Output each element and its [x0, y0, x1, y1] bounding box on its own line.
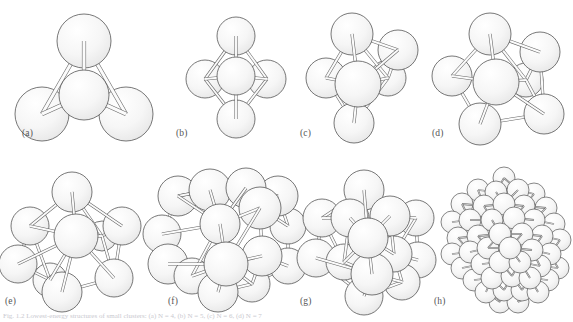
panel-label-e: (e): [5, 296, 16, 306]
panel-label-f: (f): [168, 296, 178, 306]
cluster-panel-d: [440, 10, 566, 136]
cluster-panel-h: [442, 170, 568, 300]
panel-label-g: (g): [300, 296, 312, 306]
cluster-panel-f: [152, 168, 292, 300]
panel-label-a: (a): [22, 128, 33, 138]
atom-layer-4: [473, 59, 519, 105]
atom-sphere: [473, 59, 519, 105]
cluster-panel-g: [306, 170, 432, 300]
cluster-panel-a: [10, 6, 155, 136]
atom-sphere: [335, 61, 381, 107]
cluster-panel-e: [10, 170, 145, 300]
atom-sphere: [59, 70, 109, 120]
panel-label-h: (h): [434, 296, 446, 306]
cluster-structures-figure: Fig. 1.2 Lowest-energy structures of sma…: [0, 0, 573, 322]
atom-sphere: [499, 237, 521, 259]
panel-label-d: (d): [432, 128, 444, 138]
atom-layer-4: [348, 218, 388, 258]
cluster-panel-b: [186, 14, 286, 136]
atom-layer-3: [217, 57, 255, 95]
atom-layer-3: [59, 70, 109, 120]
panel-label-b: (b): [176, 128, 188, 138]
cluster-panel-c: [310, 10, 420, 136]
atom-sphere: [217, 57, 255, 95]
atom-sphere: [204, 242, 248, 286]
atom-sphere: [54, 214, 98, 258]
atom-layer-4: [335, 61, 381, 107]
panel-label-c: (c): [300, 128, 311, 138]
atom-layer-5: [204, 242, 248, 286]
atom-layer-4: [54, 214, 98, 258]
atom-sphere: [348, 218, 388, 258]
figure-caption: Fig. 1.2 Lowest-energy structures of sma…: [3, 312, 563, 320]
